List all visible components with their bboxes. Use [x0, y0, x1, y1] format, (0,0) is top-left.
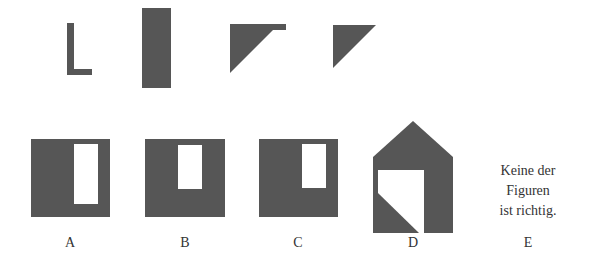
triangle-with-tab-piece — [230, 24, 286, 73]
option-e-line-1: Keine der — [480, 161, 576, 181]
option-e-line-2: Figuren — [480, 181, 576, 201]
option-e-text[interactable]: Keine der Figuren ist richtig. — [480, 161, 576, 221]
options-row — [31, 121, 453, 233]
tall-rectangle-piece — [142, 8, 171, 88]
option-c-figure[interactable] — [259, 139, 338, 217]
option-a-figure[interactable] — [31, 139, 110, 217]
l-shape-piece — [67, 23, 92, 75]
option-d-label[interactable]: D — [398, 235, 428, 251]
option-e-label[interactable]: E — [513, 235, 543, 251]
option-e-line-3: ist richtig. — [480, 201, 576, 221]
option-b-label[interactable]: B — [170, 235, 200, 251]
window-cutout — [302, 144, 326, 188]
option-d-figure[interactable] — [373, 121, 453, 233]
right-triangle-piece — [333, 25, 376, 68]
window-cutout — [178, 145, 202, 189]
puzzle-canvas — [0, 0, 594, 268]
option-b-figure[interactable] — [145, 139, 225, 217]
option-a-label[interactable]: A — [55, 235, 85, 251]
window-cutout — [74, 144, 98, 204]
pieces-row — [67, 8, 376, 88]
option-c-label[interactable]: C — [283, 235, 313, 251]
